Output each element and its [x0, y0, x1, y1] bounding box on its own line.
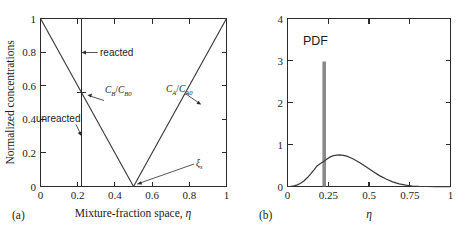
figure-container: 0 0.2 0.4 0.6 0.8 1 0 0.2 0.4 0.6 0.8 1 … [0, 0, 473, 238]
series-ca-over-ca0 [134, 19, 227, 187]
two-panel-figure: 0 0.2 0.4 0.6 0.8 1 0 0.2 0.4 0.6 0.8 1 … [0, 0, 473, 238]
panel-a-x-axis-title: Mixture-fraction space, η [75, 207, 192, 220]
panel-a-ytick-4: 0.8 [22, 46, 36, 58]
panel-a: 0 0.2 0.4 0.6 0.8 1 0 0.2 0.4 0.6 0.8 1 … [4, 13, 229, 223]
panel-a-xtick-4: 0.8 [182, 189, 196, 201]
annotation-cb-ratio: CB/CB0 [88, 85, 133, 101]
panel-a-xtick-3: 0.6 [145, 189, 159, 201]
panel-b-caption: (b) [259, 209, 273, 222]
svg-text:ξs: ξs [196, 158, 203, 170]
annotation-unreacted-label: unreacted [36, 113, 80, 124]
annotation-ca-denominator-sub: A0 [184, 89, 193, 96]
panel-b-x-axis-title: η [366, 208, 372, 221]
panel-b-xtick-0: 0 [285, 189, 291, 201]
panel-b-y-ticklabels: 0 1 2 3 4 [278, 13, 284, 193]
panel-b: 0 0.25 0.5 0.75 1 0 1 2 3 4 PDF η [259, 13, 453, 223]
annotation-reacted-label: reacted [100, 47, 133, 58]
panel-b-ytick-4: 4 [278, 13, 284, 25]
panel-a-caption: (a) [12, 209, 25, 222]
local-mixture-fraction-bar [322, 62, 326, 187]
annotation-xi-sub: s [200, 163, 203, 170]
panel-b-xtick-1: 0.25 [319, 189, 339, 201]
panel-a-y-axis-title: Normalized concentrations [4, 40, 16, 165]
panel-b-x-ticklabels: 0 0.25 0.5 0.75 1 [285, 189, 454, 201]
panel-a-ytick-0: 0 [31, 181, 37, 193]
panel-b-xtick-4: 1 [448, 189, 454, 201]
panel-a-xtick-2: 0.4 [108, 189, 122, 201]
annotation-unreacted: unreacted [36, 113, 81, 136]
annotation-reacted: reacted [81, 47, 133, 58]
panel-b-ytick-0: 0 [278, 181, 284, 193]
panel-b-xtick-3: 0.75 [400, 189, 420, 201]
panel-a-ytick-1: 0.2 [22, 147, 36, 159]
annotation-cb-denominator-sub: B0 [124, 90, 132, 97]
panel-a-x-axis-title-symbol: η [186, 207, 192, 220]
panel-b-pdf-label: PDF [303, 34, 328, 48]
panel-a-xtick-0: 0 [38, 189, 44, 201]
panel-a-x-axis-title-text: Mixture-fraction space, [75, 207, 186, 220]
panel-b-ytick-1: 1 [278, 139, 284, 151]
panel-a-x-ticklabels: 0 0.2 0.4 0.6 0.8 1 [38, 189, 230, 201]
annotation-ca-ratio: CA/CA0 [166, 84, 201, 105]
panel-a-ytick-5: 1 [31, 13, 37, 25]
panel-a-y-ticklabels: 0 0.2 0.4 0.6 0.8 1 [22, 13, 36, 193]
panel-a-ytick-3: 0.6 [22, 80, 36, 92]
panel-a-xtick-1: 0.2 [71, 189, 85, 201]
svg-text:CB/CB0: CB/CB0 [105, 85, 132, 97]
panel-a-ytick-2: 0.4 [22, 113, 36, 125]
panel-b-ytick-2: 2 [278, 97, 284, 109]
panel-b-xtick-2: 0.5 [362, 189, 376, 201]
svg-text:Mixture-fraction space, η: Mixture-fraction space, η [75, 207, 192, 220]
panel-b-ytick-3: 3 [278, 55, 284, 67]
panel-a-xtick-5: 1 [224, 189, 230, 201]
series-cb-over-cb0 [41, 19, 134, 187]
